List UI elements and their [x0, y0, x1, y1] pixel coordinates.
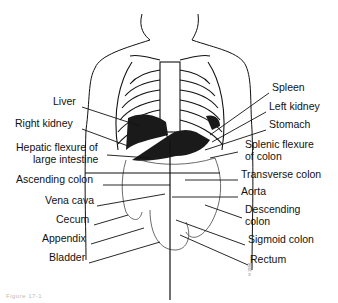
- label-appendix: Appendix: [42, 232, 86, 244]
- vessels: [85, 140, 220, 300]
- copyright-credit: © 1994: [247, 263, 252, 276]
- label-cecum: Cecum: [56, 213, 89, 225]
- label-hepatic-flexure: Hepatic flexure of: [16, 141, 98, 153]
- figure-caption: Figure 17-1: [6, 293, 42, 299]
- label-ascending-colon: Ascending colon: [16, 173, 93, 185]
- label-hepatic-flexure-2: large intestine: [33, 153, 98, 165]
- label-splenic-flexure-2: of colon: [245, 150, 282, 162]
- label-transverse-colon: Transverse colon: [241, 168, 321, 180]
- label-stomach: Stomach: [269, 118, 310, 130]
- label-right-kidney: Right kidney: [15, 117, 73, 129]
- label-bladder: Bladder: [49, 251, 85, 263]
- intestines: [122, 158, 220, 250]
- label-rectum: Rectum: [250, 253, 286, 265]
- label-liver: Liver: [53, 95, 76, 107]
- label-aorta: Aorta: [241, 185, 266, 197]
- label-spleen: Spleen: [272, 81, 305, 93]
- label-sigmoid-colon: Sigmoid colon: [248, 233, 314, 245]
- label-left-kidney: Left kidney: [269, 100, 320, 112]
- label-vena-cava: Vena cava: [45, 194, 94, 206]
- label-descending-colon-2: colon: [245, 215, 270, 227]
- label-descending-colon: Descending: [245, 203, 300, 215]
- organs-dark: [126, 115, 220, 161]
- label-splenic-flexure: Splenic flexure: [245, 138, 314, 150]
